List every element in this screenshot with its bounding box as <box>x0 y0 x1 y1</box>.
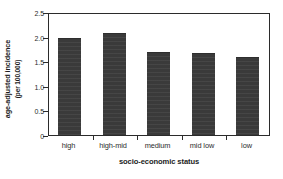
x-tick-label-low: low <box>217 141 277 150</box>
x-tick-mark-4 <box>226 136 227 140</box>
y-tick-label-1-0: 1.0 <box>14 83 44 90</box>
plot-area <box>48 13 270 136</box>
x-tick-mark-3 <box>182 136 183 140</box>
x-tick-mark-2 <box>137 136 138 140</box>
bar-chart-figure: age-adjusted incidence (per 100,000) 2.5… <box>0 0 283 179</box>
bar-mid-low[interactable] <box>192 53 215 135</box>
bar-high[interactable] <box>58 38 81 135</box>
y-tick-label-0: 0 <box>14 133 44 140</box>
y-tick-mark-0 <box>43 136 48 137</box>
y-tick-label-2-5: 2.5 <box>14 10 44 17</box>
x-tick-mark-1 <box>93 136 94 140</box>
x-axis-title: socio-economic status <box>48 157 270 166</box>
y-tick-label-2-0: 2.0 <box>14 34 44 41</box>
y-tick-label-1-5: 1.5 <box>14 59 44 66</box>
y-tick-label-0-5: 0.5 <box>14 108 44 115</box>
bar-low[interactable] <box>236 57 259 135</box>
bar-high-mid[interactable] <box>103 33 126 135</box>
y-axis-title-line1: age-adjusted incidence <box>3 19 13 139</box>
bar-medium[interactable] <box>147 52 170 135</box>
